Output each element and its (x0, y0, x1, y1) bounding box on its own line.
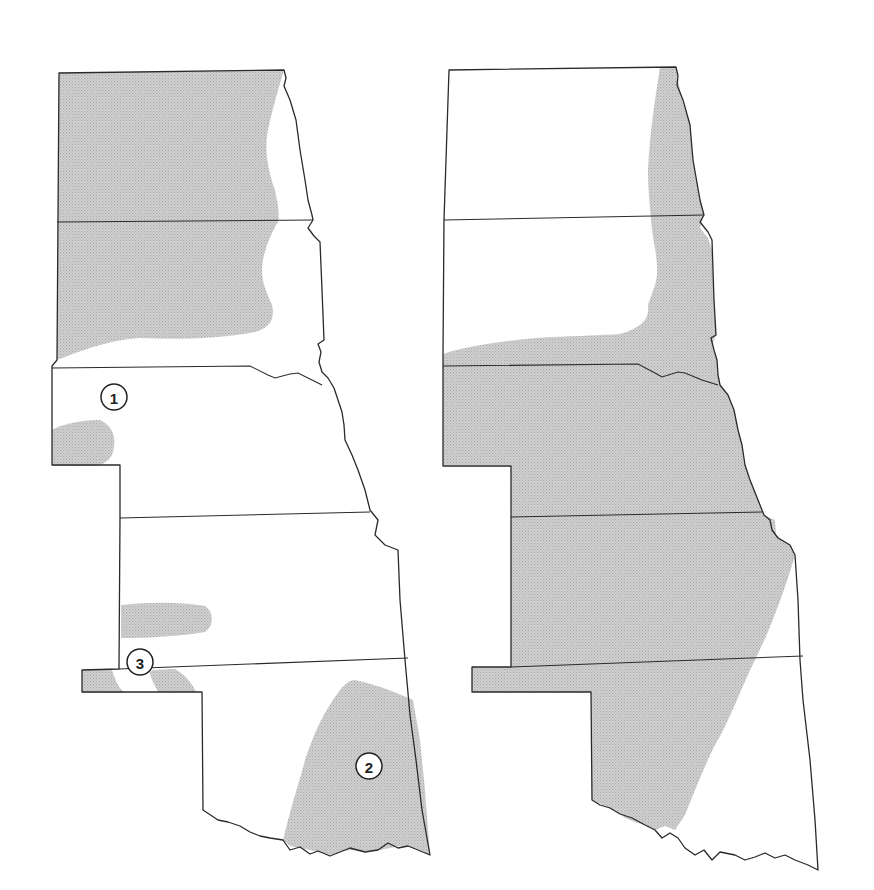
shade-kansas-west (121, 603, 212, 638)
left-shaded-regions (52, 70, 430, 855)
label-2: 2 (356, 753, 382, 779)
svg-text:1: 1 (110, 390, 118, 407)
shade-nebraska-west (52, 420, 114, 466)
left-border-ks-ok (119, 658, 408, 669)
svg-text:2: 2 (365, 759, 373, 776)
right-map (443, 67, 818, 870)
left-map: 1 2 3 (52, 70, 430, 856)
label-3: 3 (127, 649, 153, 675)
label-1: 1 (101, 384, 127, 410)
shade-panhandle-2 (150, 669, 196, 692)
shade-dakotas (57, 70, 284, 360)
left-border-ne-ks (120, 512, 370, 518)
shade-panhandle (82, 670, 125, 693)
map-figure: 1 2 3 (0, 0, 874, 890)
left-border-sd-ne (52, 366, 322, 385)
svg-text:3: 3 (136, 655, 144, 672)
